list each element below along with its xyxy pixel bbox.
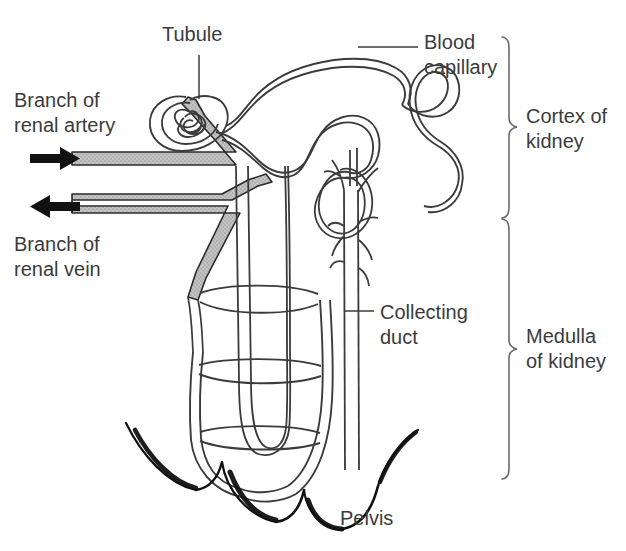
label-collecting-duct: Collecting duct [380, 300, 468, 350]
label-medulla-of-kidney: Medulla of kidney [526, 324, 606, 374]
vasa-recta-supply [188, 297, 203, 352]
arrow-group [30, 147, 80, 218]
artery-inflow-arrow [30, 147, 80, 170]
label-blood-capillary: Blood capillary [424, 30, 497, 80]
label-cortex-of-kidney: Cortex of kidney [526, 104, 607, 154]
loop-of-henle [236, 166, 290, 455]
label-pelvis: Pelvis [340, 506, 393, 531]
leader-lines [199, 47, 418, 311]
cortex-tubule-loop-upper [216, 116, 379, 179]
distal-convoluted-tubule [402, 65, 463, 212]
medulla-brace [502, 219, 517, 479]
label-branch-of-renal-artery: Branch of renal artery [14, 88, 115, 138]
proximal-convoluted-tubule [220, 59, 411, 134]
cortex-brace [502, 37, 517, 218]
label-branch-of-renal-vein: Branch of renal vein [14, 232, 101, 282]
vasa-recta-network [190, 286, 333, 502]
branch-of-renal-vein-vessel [72, 174, 272, 300]
diagram-canvas: Tubule Branch of renal artery Branch of … [0, 0, 626, 551]
collecting-duct [324, 148, 378, 470]
label-tubule: Tubule [162, 22, 222, 47]
